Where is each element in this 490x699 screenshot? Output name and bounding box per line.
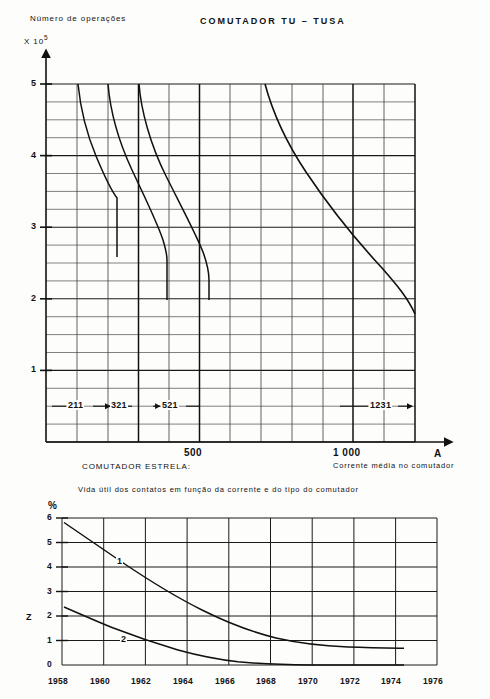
curve-label-521: 521 — [161, 400, 179, 410]
bottom-x-tick-1972: 1972 — [340, 676, 360, 686]
bottom-x-tick-1970: 1970 — [298, 676, 318, 686]
main-y-tick-3: 3 — [31, 221, 37, 231]
bottom-curve-label-1: 1 — [116, 556, 123, 566]
main-y-tick-1: 1 — [31, 364, 37, 374]
main-y-tick-4: 4 — [31, 150, 37, 160]
main-y-tick-2: 2 — [31, 293, 37, 303]
bottom-curve-label-2: 2 — [120, 634, 127, 644]
main-y-tick-5: 5 — [31, 78, 37, 88]
curve-label-211: 211 — [67, 400, 84, 410]
bottom-x-tick-1962: 1962 — [131, 676, 151, 686]
section-label-comutador-estrela: COMUTADOR ESTRELA: — [82, 462, 191, 471]
main-x-axis-unit: A — [434, 448, 442, 459]
curve-label-321: 321 — [110, 400, 128, 410]
main-x-axis-caption: Corrente média no comutador — [333, 461, 454, 470]
bottom-x-tick-1974: 1974 — [381, 676, 401, 686]
bottom-y-axis-symbol: Z — [26, 612, 32, 622]
bottom-chart-subtitle: Vida útil dos contatos em função da corr… — [78, 485, 359, 494]
curve-321 — [108, 84, 167, 300]
bottom-x-tick-1964: 1964 — [173, 676, 193, 686]
bottom-grid-horizontal — [62, 518, 437, 665]
bottom-x-tick-1958: 1958 — [48, 676, 68, 686]
main-grid-horizontal-minor — [46, 102, 415, 424]
bottom-chart — [0, 500, 490, 699]
bottom-y-tick-6: 6 — [47, 512, 52, 522]
bottom-y-tick-2: 2 — [47, 610, 52, 620]
main-x-tick-500: 500 — [184, 447, 202, 458]
bottom-y-axis-unit: % — [48, 500, 57, 511]
curve-label-1231: 1231 — [369, 400, 392, 410]
bottom-x-tick-1968: 1968 — [256, 676, 276, 686]
bottom-y-tick-0: 0 — [47, 659, 52, 669]
chart-page: Número de operações X 105 COMUTADOR TU –… — [0, 0, 490, 699]
curve-521 — [139, 84, 209, 300]
curve-1231 — [265, 84, 415, 314]
bottom-y-tick-1: 1 — [47, 635, 52, 645]
bottom-y-tick-3: 3 — [47, 586, 52, 596]
main-x-tick-1000: 1 000 — [333, 447, 361, 458]
bottom-x-tick-1966: 1966 — [215, 676, 235, 686]
bottom-x-tick-1976: 1976 — [423, 676, 443, 686]
bottom-y-tick-4: 4 — [47, 561, 52, 571]
bottom-y-tick-5: 5 — [47, 537, 52, 547]
bottom-x-tick-1960: 1960 — [90, 676, 110, 686]
